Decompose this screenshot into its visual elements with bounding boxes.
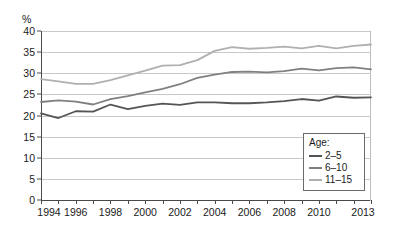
x-axis-tick-mark	[93, 200, 94, 204]
series-line-2-5	[41, 96, 371, 118]
legend-swatch-11-15	[309, 179, 322, 182]
x-axis-tick-mark	[76, 200, 77, 204]
x-axis-tick-mark	[371, 200, 372, 204]
y-axis-tick-label: 30	[23, 68, 35, 79]
y-axis-tick-label: 5	[29, 174, 35, 185]
y-axis-tick-mark	[37, 200, 41, 201]
x-axis-tick-label: 2002	[168, 207, 191, 218]
y-axis-tick-label: 0	[29, 195, 35, 206]
y-axis-tick-mark	[37, 136, 41, 137]
y-axis-tick-mark	[37, 52, 41, 53]
x-axis-tick-label: 1996	[64, 207, 87, 218]
x-axis-tick-mark	[267, 200, 268, 204]
legend-item[interactable]: 2–5	[309, 150, 360, 162]
x-axis-tick-mark	[58, 200, 59, 204]
y-axis-tick-mark	[37, 178, 41, 179]
legend-label-2-5: 2–5	[325, 150, 342, 162]
y-axis-tick-mark	[37, 94, 41, 95]
x-axis-tick-mark	[145, 200, 146, 204]
x-axis-tick-label: 2008	[272, 207, 295, 218]
x-axis-tick-label: 2013	[351, 207, 374, 218]
x-axis-tick-mark	[163, 200, 164, 204]
x-axis-tick-mark	[197, 200, 198, 204]
series-line-6-10	[41, 67, 371, 104]
x-axis-tick-mark	[302, 200, 303, 204]
x-axis-tick-mark	[232, 200, 233, 204]
x-axis-tick-label: 1998	[99, 207, 122, 218]
y-axis-tick-label: 25	[23, 89, 35, 100]
y-axis-tick-mark	[37, 115, 41, 116]
x-axis-tick-label: 1994	[37, 207, 60, 218]
x-axis-tick-mark	[319, 200, 320, 204]
legend-item[interactable]: 11–15	[309, 174, 360, 186]
y-axis-tick-labels: 0510152025303540	[0, 0, 35, 229]
y-axis-tick-label: 10	[23, 153, 35, 164]
x-axis-tick-mark	[110, 200, 111, 204]
y-axis-tick-mark	[37, 31, 41, 32]
x-axis-tick-label: 2006	[238, 207, 261, 218]
y-axis-tick-label: 15	[23, 131, 35, 142]
x-axis-tick-mark	[249, 200, 250, 204]
x-axis-tick-mark	[354, 200, 355, 204]
x-axis-tick-label: 2000	[134, 207, 157, 218]
x-axis-tick-mark	[336, 200, 337, 204]
legend-label-11-15: 11–15	[325, 174, 352, 186]
x-axis-tick-mark	[128, 200, 129, 204]
series-line-11-15	[41, 45, 371, 84]
x-axis-tick-mark	[215, 200, 216, 204]
legend-title: Age:	[309, 137, 360, 149]
x-axis-line	[41, 200, 371, 201]
x-axis-tick-mark	[41, 200, 42, 204]
x-axis-tick-label: 2010	[307, 207, 330, 218]
legend-swatch-2-5	[309, 155, 322, 158]
legend-label-6-10: 6–10	[325, 162, 347, 174]
legend-item[interactable]: 6–10	[309, 162, 360, 174]
y-axis-tick-label: 20	[23, 110, 35, 121]
x-axis-tick-mark	[284, 200, 285, 204]
x-axis-tick-mark	[180, 200, 181, 204]
y-axis-tick-label: 40	[23, 26, 35, 37]
y-axis-tick-mark	[37, 73, 41, 74]
x-axis-tick-label: 2004	[203, 207, 226, 218]
legend-swatch-6-10	[309, 167, 322, 170]
line-chart: % 0510152025303540 199419961998200020022…	[0, 0, 399, 229]
y-axis-tick-label: 35	[23, 47, 35, 58]
legend: Age: 2–5 6–10 11–15	[303, 133, 365, 191]
y-axis-tick-mark	[37, 157, 41, 158]
